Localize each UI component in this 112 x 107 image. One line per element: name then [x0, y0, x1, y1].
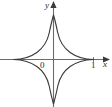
origin-label: 0 — [40, 61, 45, 70]
astroid-figure: y x 0 1 — [0, 0, 112, 107]
plot-canvas — [0, 0, 112, 107]
x-axis-label: x — [103, 60, 107, 69]
y-axis-label: y — [45, 1, 49, 10]
x-tick-label-one: 1 — [91, 61, 96, 70]
y-axis-arrowhead — [50, 1, 56, 8]
